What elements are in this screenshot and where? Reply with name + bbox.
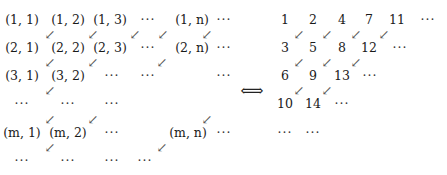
- ellipsis: ···: [61, 97, 76, 111]
- diagonal-arrow-icon: ↙: [88, 56, 99, 69]
- ellipsis: ···: [138, 154, 153, 168]
- ellipsis: ···: [421, 13, 436, 27]
- ellipsis: ···: [363, 69, 378, 83]
- ellipsis: ···: [335, 97, 350, 111]
- diagonal-arrow-icon: ↙: [202, 113, 213, 126]
- diagonal-arrow-icon: ↙: [202, 28, 213, 41]
- number-cell: 11: [389, 13, 405, 27]
- pair-cell: (1, 1): [5, 13, 39, 27]
- diagonal-arrow-icon: ↙: [157, 141, 168, 154]
- ellipsis: ···: [217, 69, 232, 83]
- number-cell: 14: [305, 97, 321, 111]
- ellipsis: ···: [141, 13, 156, 27]
- ellipsis: ···: [61, 154, 76, 168]
- number-cell: 8: [338, 41, 346, 55]
- pair-cell: (2, 2): [51, 41, 85, 55]
- number-cell: 10: [277, 97, 293, 111]
- pair-cell: (3, 2): [51, 69, 85, 83]
- ellipsis: ···: [217, 13, 232, 27]
- number-cell: 1: [281, 13, 289, 27]
- number-cell: 12: [361, 41, 377, 55]
- ellipsis: ···: [141, 41, 156, 55]
- diagonal-arrow-icon: ↙: [322, 28, 333, 41]
- number-cell: 7: [365, 13, 373, 27]
- number-cell: 9: [309, 69, 317, 83]
- ellipsis: ···: [105, 69, 120, 83]
- pair-cell: (m, n): [169, 126, 207, 140]
- ellipsis: ···: [105, 154, 120, 168]
- number-cell: 13: [334, 69, 350, 83]
- diagonal-arrow-icon: ↙: [45, 113, 56, 126]
- diagonal-arrow-icon: ↙: [157, 56, 168, 69]
- number-cell: 4: [338, 13, 346, 27]
- pair-cell: (m, 1): [3, 126, 41, 140]
- diagonal-arrow-icon: ↙: [351, 56, 362, 69]
- number-cell: 3: [281, 41, 289, 55]
- pair-cell: (1, 2): [51, 13, 85, 27]
- pair-cell: (3, 1): [5, 69, 39, 83]
- ellipsis: ···: [393, 41, 408, 55]
- diagonal-arrow-icon: ↙: [45, 28, 56, 41]
- diagonal-arrow-icon: ↙: [45, 56, 56, 69]
- diagonal-arrow-icon: ↙: [322, 84, 333, 97]
- number-cell: 5: [309, 41, 317, 55]
- ellipsis: ···: [306, 126, 321, 140]
- diagonal-arrow-icon: ↙: [45, 84, 56, 97]
- diagonal-arrow-icon: ↙: [45, 141, 56, 154]
- diagonal-arrow-icon: ↙: [322, 56, 333, 69]
- number-cell: 2: [309, 13, 317, 27]
- ellipsis: ···: [15, 97, 30, 111]
- ellipsis: ···: [278, 126, 293, 140]
- diagonal-arrow-icon: ↙: [88, 28, 99, 41]
- equivalence-arrow-icon: ⟺: [241, 81, 264, 100]
- pair-cell: (1, 3): [93, 13, 127, 27]
- ellipsis: ···: [15, 154, 30, 168]
- pair-cell: (m, 2): [49, 126, 87, 140]
- diagonal-arrow-icon: ↙: [351, 28, 362, 41]
- pair-cell: (2, n): [175, 41, 209, 55]
- pair-cell: (1, n): [175, 13, 209, 27]
- diagonal-arrow-icon: ↙: [130, 28, 141, 41]
- diagonal-arrow-icon: ↙: [379, 28, 390, 41]
- diagonal-arrow-icon: ↙: [294, 84, 305, 97]
- diagonal-arrow-icon: ↙: [158, 28, 169, 41]
- diagonal-arrow-icon: ↙: [88, 113, 99, 126]
- ellipsis: ···: [217, 41, 232, 55]
- number-cell: 6: [281, 69, 289, 83]
- pair-cell: (2, 1): [5, 41, 39, 55]
- ellipsis: ···: [217, 126, 232, 140]
- ellipsis: ···: [105, 126, 120, 140]
- pair-cell: (2, 3): [93, 41, 127, 55]
- diagonal-arrow-icon: ↙: [294, 56, 305, 69]
- ellipsis: ···: [141, 69, 156, 83]
- ellipsis: ···: [105, 97, 120, 111]
- diagonal-arrow-icon: ↙: [294, 28, 305, 41]
